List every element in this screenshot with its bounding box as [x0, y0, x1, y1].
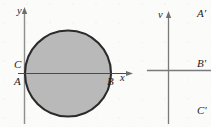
point-label-b: B: [107, 76, 114, 87]
point-label-c-prime: C': [197, 105, 207, 116]
y-axis-arrowhead: [22, 7, 27, 14]
left-y-axis-label: y: [17, 6, 22, 17]
right-v-axis-label: v: [158, 10, 163, 21]
point-label-a-prime: A': [197, 8, 206, 19]
v-axis-arrowhead: [166, 11, 171, 18]
left-panel-drawing: [0, 0, 211, 127]
point-label-a: A: [14, 76, 21, 87]
figure-root: y C A B x v A' B' C': [0, 0, 211, 127]
point-label-c: C: [14, 59, 21, 70]
left-x-axis-label: x: [120, 73, 125, 84]
x-axis-arrowhead: [126, 71, 133, 76]
point-label-b-prime: B': [197, 58, 206, 69]
